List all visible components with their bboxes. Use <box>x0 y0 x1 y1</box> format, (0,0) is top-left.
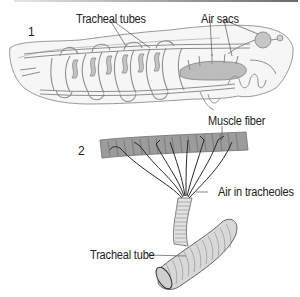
label-tracheal-tube: Tracheal tube <box>90 248 155 262</box>
label-tracheal-tubes: Tracheal tubes <box>76 12 146 26</box>
label-muscle-fiber: Muscle fiber <box>208 114 265 128</box>
tracheal-trunk <box>173 198 192 246</box>
panel-number-2: 2 <box>78 144 85 158</box>
insect-body <box>10 25 293 104</box>
diagram-figure: 1 Tracheal tubes Air sacs 2 Muscle fiber… <box>0 0 300 297</box>
label-air-in-tracheoles: Air in tracheoles <box>218 185 294 199</box>
label-air-sacs: Air sacs <box>201 12 239 26</box>
panel-number-1: 1 <box>28 25 35 39</box>
